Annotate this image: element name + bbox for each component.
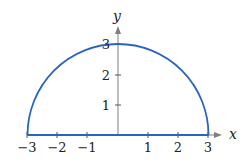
y-axis-label: y	[112, 8, 122, 24]
axes	[27, 26, 222, 138]
x-tick-label: −3	[17, 140, 36, 155]
y-tick-label: 3	[102, 37, 110, 52]
y-tick-label: 2	[102, 68, 110, 83]
chart-canvas: −3 −2 −1 1 2 3 1 2 3 x y	[0, 0, 250, 165]
x-axis-arrow-icon	[214, 132, 222, 138]
y-tick-label: 1	[102, 98, 110, 113]
y-tick-labels: 1 2 3	[102, 37, 110, 113]
x-axis-label: x	[229, 126, 237, 142]
x-tick-labels: −3 −2 −1 1 2 3	[17, 140, 212, 155]
x-tick-label: 3	[204, 140, 212, 155]
y-axis-arrow-icon	[115, 26, 121, 34]
x-tick-label: 2	[174, 140, 182, 155]
x-tick-label: −1	[77, 140, 96, 155]
x-tick-label: −2	[47, 140, 66, 155]
x-tick-label: 1	[144, 140, 152, 155]
